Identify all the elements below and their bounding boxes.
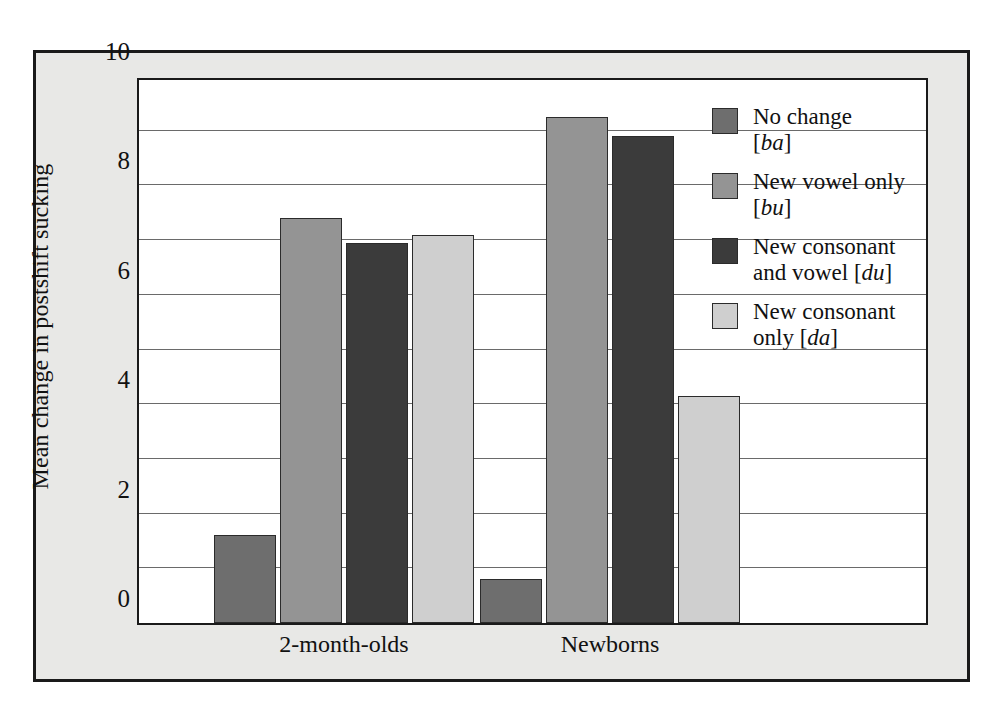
chart-plot-area: 0246810 2-month-oldsNewborns No change[b… [137,78,928,625]
bar [480,579,542,623]
legend-label: New vowel only[bu] [753,169,905,221]
chart-legend: No change[ba]New vowel only[bu]New conso… [712,104,932,364]
figure-frame: 0246810 2-month-oldsNewborns No change[b… [33,50,970,682]
bar [412,235,474,623]
x-axis-group-label: 2-month-olds [279,631,408,658]
y-tick-label: 2 [118,476,131,501]
bar [678,396,740,623]
legend-label: New consonantand vowel [du] [753,234,895,286]
y-axis-title: Mean change in postshift sucking [22,53,58,600]
legend-item: No change[ba] [712,104,932,156]
bar [214,535,276,623]
bar [546,117,608,623]
x-axis-group-label: Newborns [561,631,660,658]
legend-swatch [712,173,738,199]
legend-swatch [712,303,738,329]
legend-label: No change[ba] [753,104,852,156]
legend-item: New consonantand vowel [du] [712,234,932,286]
legend-item: New consonantonly [da] [712,299,932,351]
y-tick-label: 0 [118,586,131,611]
bar [280,218,342,623]
bar [346,243,408,623]
legend-item: New vowel only[bu] [712,169,932,221]
y-tick-label: 10 [105,39,130,64]
y-tick-label: 8 [118,148,131,173]
y-tick-label: 4 [118,367,131,392]
legend-swatch [712,238,738,264]
bar [612,136,674,623]
legend-label: New consonantonly [da] [753,299,895,351]
y-tick-label: 6 [118,257,131,282]
legend-swatch [712,108,738,134]
